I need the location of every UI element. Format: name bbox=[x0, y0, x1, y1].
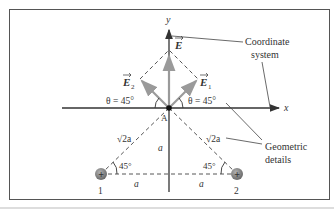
angle-arc-bottom-right bbox=[221, 162, 225, 174]
svg-text:E: E bbox=[122, 76, 130, 88]
angle-bottom-left-label: 45° bbox=[119, 161, 132, 171]
hyp-left bbox=[101, 108, 169, 174]
charge-2: + bbox=[231, 168, 243, 180]
callout-coordinate-x bbox=[262, 62, 270, 107]
callout-geometric-line2: details bbox=[265, 154, 291, 165]
angle-bottom-right-label: 45° bbox=[203, 161, 216, 171]
label-E1: E 1 bbox=[199, 73, 212, 91]
label-E: E bbox=[174, 36, 183, 51]
base-right-label: a bbox=[199, 179, 204, 189]
charge-2-label: 2 bbox=[234, 186, 239, 196]
angle-arc-bottom-left bbox=[113, 162, 117, 174]
angle-arc-right bbox=[179, 98, 183, 108]
svg-text:E: E bbox=[174, 39, 182, 51]
callout-coordinate-line2: system bbox=[251, 49, 279, 60]
point-A bbox=[166, 105, 172, 111]
label-E2: E 2 bbox=[122, 73, 135, 91]
svg-text:1: 1 bbox=[208, 83, 212, 91]
callout-geometric-line1: Geometric bbox=[265, 141, 308, 152]
y-axis-label: y bbox=[165, 14, 171, 25]
base-left-label: a bbox=[134, 179, 139, 189]
vertical-distance-label: a bbox=[158, 143, 163, 153]
svg-text:E: E bbox=[199, 76, 207, 88]
hyp-left-label: √2a bbox=[117, 134, 132, 144]
origin-label: A bbox=[161, 113, 168, 123]
theta-right-label: θ = 45° bbox=[188, 96, 216, 106]
hyp-right-label: √2a bbox=[206, 134, 221, 144]
charge-1-sign: + bbox=[98, 169, 104, 180]
svg-text:2: 2 bbox=[131, 83, 135, 91]
theta-left-label: θ = 45° bbox=[106, 96, 134, 106]
electric-field-diagram: + + y x A E E 2 E 1 θ = 45° θ = 45° √2a … bbox=[0, 0, 334, 210]
x-axis-label: x bbox=[283, 102, 289, 113]
callout-geometric-hyp bbox=[226, 138, 262, 144]
charge-1: + bbox=[95, 168, 107, 180]
callout-coordinate-line1: Coordinate bbox=[245, 36, 290, 47]
angle-arc-left bbox=[155, 98, 159, 108]
charge-2-sign: + bbox=[234, 169, 240, 180]
callout-coordinate-y bbox=[172, 36, 243, 42]
charge-1-label: 1 bbox=[98, 186, 103, 196]
